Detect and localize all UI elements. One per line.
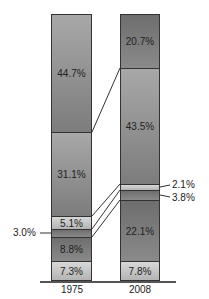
bar-2008-s5: 43.5%	[120, 68, 160, 185]
stacked-bar-chart: 44.7% 31.1% 5.1% 8.8% 7.3% 20.7% 43.5% 2…	[0, 0, 209, 299]
bar-1975-s5: 31.1%	[51, 132, 92, 217]
bar-1975-s1: 7.3%	[51, 261, 92, 281]
label: 43.5%	[126, 121, 154, 132]
label: 8.8%	[60, 244, 83, 255]
bar-2008-s1: 7.8%	[120, 261, 160, 281]
label-1975-s3: 3.0%	[13, 227, 36, 238]
label-2008-s4: 2.1%	[172, 179, 195, 190]
label: 7.8%	[129, 266, 152, 277]
label: 22.1%	[126, 226, 154, 237]
connector-lines	[0, 0, 209, 299]
x-tick-2008: 2008	[115, 284, 165, 295]
label: 7.3%	[60, 266, 83, 277]
label: 20.7%	[126, 36, 154, 47]
label-2008-s3: 3.8%	[172, 192, 195, 203]
bar-2008-s2: 22.1%	[120, 200, 160, 262]
bar-2008-s6: 20.7%	[120, 14, 160, 69]
label: 44.7%	[57, 68, 85, 79]
label: 31.1%	[57, 169, 85, 180]
x-axis-line	[40, 281, 176, 283]
bar-1975-s6: 44.7%	[51, 14, 92, 133]
bar-1975-s4: 5.1%	[51, 216, 92, 230]
x-tick-1975: 1975	[47, 284, 97, 295]
bar-1975-s2: 8.8%	[51, 237, 92, 262]
label: 5.1%	[60, 218, 83, 229]
